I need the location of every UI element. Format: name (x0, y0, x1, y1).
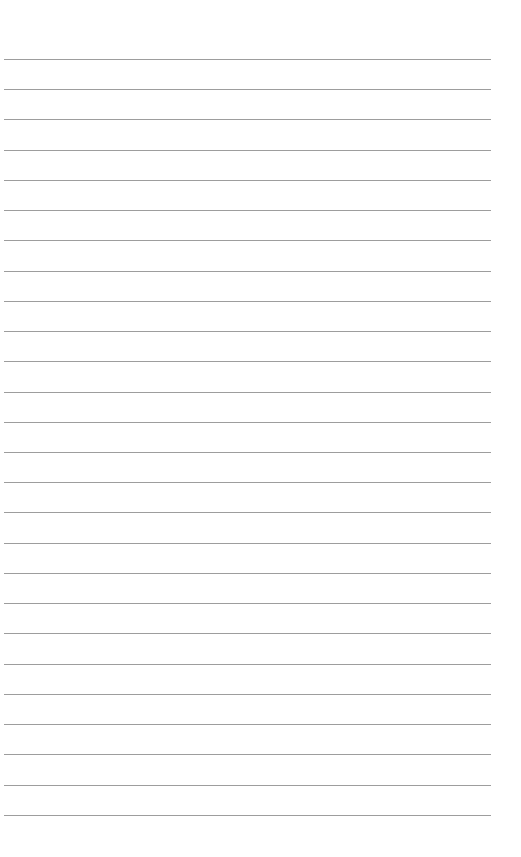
ruled-line (4, 512, 491, 513)
ruled-line (4, 89, 491, 90)
ruled-line (4, 180, 491, 181)
ruled-line (4, 392, 491, 393)
ruled-line (4, 452, 491, 453)
ruled-line (4, 240, 491, 241)
ruled-line (4, 694, 491, 695)
ruled-line (4, 482, 491, 483)
ruled-line (4, 785, 491, 786)
ruled-line (4, 301, 491, 302)
ruled-line (4, 422, 491, 423)
ruled-line (4, 361, 491, 362)
ruled-line (4, 331, 491, 332)
ruled-line (4, 815, 491, 816)
ruled-line (4, 210, 491, 211)
ruled-line (4, 59, 491, 60)
ruled-line (4, 754, 491, 755)
ruled-line (4, 664, 491, 665)
ruled-line (4, 150, 491, 151)
ruled-line (4, 724, 491, 725)
ruled-line (4, 603, 491, 604)
ruled-line (4, 573, 491, 574)
ruled-line (4, 633, 491, 634)
lined-paper-page (0, 0, 521, 857)
ruled-line (4, 271, 491, 272)
ruled-line (4, 543, 491, 544)
ruled-line (4, 119, 491, 120)
